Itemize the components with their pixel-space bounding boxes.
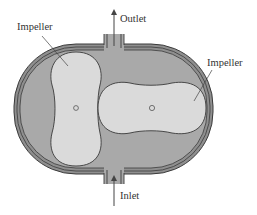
inlet-indicator: Inlet xyxy=(111,175,139,206)
outlet-label: Outlet xyxy=(120,13,146,24)
arrow-up-icon xyxy=(111,9,117,15)
impeller-left-label: Impeller xyxy=(17,21,53,32)
impeller-right xyxy=(98,82,206,133)
impeller-left xyxy=(51,52,101,166)
inlet-label: Inlet xyxy=(120,190,139,201)
lobe-pump-diagram: Outlet Inlet Impeller Impeller xyxy=(0,0,257,215)
impeller-right-label: Impeller xyxy=(207,57,243,68)
